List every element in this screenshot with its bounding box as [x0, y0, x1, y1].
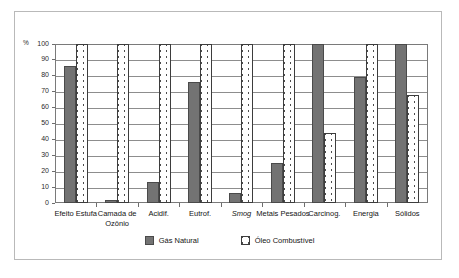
bar-chart: % Efeito EstufaCamada de OzônioAcidif.Eu…	[0, 0, 459, 278]
bar-gas-natural	[147, 182, 159, 203]
category-group	[387, 44, 428, 203]
bar-oleo-combustivel	[366, 44, 378, 203]
y-axis-tick-mark	[52, 107, 55, 108]
y-axis-tick-mark	[52, 123, 55, 124]
x-axis-separator-tick	[345, 203, 346, 207]
category-group	[55, 44, 96, 203]
x-axis-separator-tick	[304, 203, 305, 207]
category-label: Sólidos	[378, 209, 437, 219]
legend-label-gas-natural: Gás Natural	[159, 236, 199, 245]
x-axis-separator-tick	[179, 203, 180, 207]
bar-oleo-combustivel	[76, 44, 88, 203]
category-group	[262, 44, 303, 203]
bar-gas-natural	[312, 44, 324, 203]
x-axis-separator-tick	[138, 203, 139, 207]
chart-legend: Gás Natural Óleo Combustível	[0, 236, 459, 245]
y-axis-tick-label: 40	[25, 135, 49, 143]
y-axis-tick-label: 20	[25, 167, 49, 175]
legend-item-gas-natural: Gás Natural	[145, 236, 199, 245]
bar-oleo-combustivel	[407, 95, 419, 203]
y-axis-tick-label: 90	[25, 55, 49, 63]
y-axis-tick-mark	[52, 91, 55, 92]
bar-oleo-combustivel	[200, 44, 212, 203]
bar-oleo-combustivel	[283, 44, 295, 203]
category-group	[138, 44, 179, 203]
y-axis-tick-mark	[52, 59, 55, 60]
bar-gas-natural	[354, 77, 366, 203]
x-axis-separator-tick	[221, 203, 222, 207]
category-group	[345, 44, 386, 203]
y-axis-tick-mark	[52, 155, 55, 156]
y-axis-tick-mark	[52, 187, 55, 188]
y-axis-tick-label: 0	[25, 199, 49, 207]
y-axis-tick-label: 100	[25, 40, 49, 48]
y-axis-tick-mark	[52, 171, 55, 172]
y-axis-tick-label: 10	[25, 183, 49, 191]
legend-label-oleo-combustivel: Óleo Combustível	[255, 236, 315, 245]
bar-oleo-combustivel	[117, 44, 129, 203]
category-group	[304, 44, 345, 203]
bar-gas-natural	[395, 44, 407, 203]
y-axis-tick-label: 70	[25, 87, 49, 95]
bar-gas-natural	[188, 82, 200, 203]
bars-layer	[55, 44, 428, 203]
y-axis-tick-mark	[52, 75, 55, 76]
y-axis-tick-label: 50	[25, 119, 49, 127]
bar-oleo-combustivel	[241, 44, 253, 203]
category-group	[96, 44, 137, 203]
x-axis-separator-tick	[262, 203, 263, 207]
y-axis-tick-mark	[52, 44, 55, 45]
bar-gas-natural	[229, 193, 241, 203]
legend-swatch-oleo-combustivel	[241, 236, 250, 245]
y-axis-tick-mark	[52, 139, 55, 140]
category-group	[179, 44, 220, 203]
y-axis-tick-label: 30	[25, 151, 49, 159]
bar-gas-natural	[271, 163, 283, 203]
category-group	[221, 44, 262, 203]
y-axis-tick-label: 80	[25, 71, 49, 79]
legend-swatch-gas-natural	[145, 236, 154, 245]
bar-oleo-combustivel	[159, 44, 171, 203]
bar-oleo-combustivel	[324, 133, 336, 203]
x-axis-separator-tick	[96, 203, 97, 207]
y-axis-tick-label: 60	[25, 103, 49, 111]
legend-item-oleo-combustivel: Óleo Combustível	[241, 236, 315, 245]
y-axis-tick-mark	[52, 203, 55, 204]
bar-gas-natural	[64, 66, 76, 203]
x-axis-separator-tick	[387, 203, 388, 207]
bar-gas-natural	[105, 200, 117, 203]
